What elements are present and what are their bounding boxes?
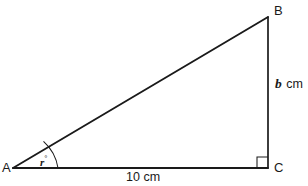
side-length-label-base: 10 cm — [126, 171, 160, 184]
unit-cm: cm — [286, 77, 303, 91]
angle-label-r: r° — [40, 155, 47, 168]
vertex-label-b: B — [274, 4, 283, 17]
side-length-label-vertical: b cm — [275, 77, 303, 91]
right-angle-marker-at-c — [257, 157, 268, 168]
vertex-label-c: C — [274, 161, 283, 174]
degree-symbol-icon: ° — [44, 154, 47, 163]
triangle-diagram: A B C 10 cm b cm r° — [0, 0, 308, 186]
vertex-label-a: A — [2, 161, 11, 174]
side-hypotenuse-ab — [13, 17, 268, 168]
variable-b: b — [275, 76, 282, 91]
